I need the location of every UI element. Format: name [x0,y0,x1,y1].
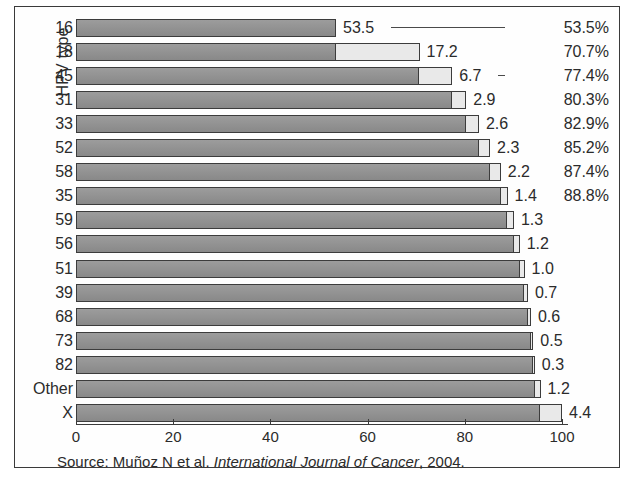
chart-row: 561.2 [15,232,621,256]
bar-group [76,235,520,253]
bar-group [76,139,490,157]
bar-group [76,211,514,229]
chart-row: 511.0 [15,257,621,281]
bar-segment-dark [76,43,336,61]
bar-group [76,356,535,374]
bar-segment-dark [76,380,535,398]
bar-value-label: 53.5 [343,16,374,40]
bar-segment-dark [76,235,514,253]
bar-group [76,284,528,302]
bar-segment-light [478,139,490,157]
chart-row: X4.4 [15,401,621,425]
chart-row: Other1.2 [15,377,621,401]
chart-row: 820.3 [15,353,621,377]
y-tick-label-35: 35 [15,184,73,208]
source-prefix: Source: Muñoz N et al. [57,453,214,470]
y-tick-label-16: 16 [15,16,73,40]
bar-segment-light [534,380,541,398]
bar-group [76,404,562,422]
bar-value-label: 2.9 [473,88,495,112]
x-tick-label-40: 40 [248,428,292,445]
bar-segment-light [489,163,501,181]
x-tick-mark [270,419,271,425]
bar-group [76,332,533,350]
y-tick-label-59: 59 [15,208,73,232]
bar-segment-dark [76,187,501,205]
x-tick-label-60: 60 [346,428,390,445]
bar-value-label: 4.4 [569,401,591,425]
y-tick-label-31: 31 [15,88,73,112]
bar-group [76,19,336,37]
bar-segment-light [523,284,528,302]
bar-segment-dark [76,332,531,350]
bar-segment-light [506,211,514,229]
cumulative-percent-label: 87.4% [564,160,609,184]
chart-row: 332.682.9% [15,112,621,136]
chart-row: 582.287.4% [15,160,621,184]
bar-group [76,43,420,61]
bar-value-label: 1.3 [521,208,543,232]
bar-segment-light [527,308,531,326]
chart-row: 390.7 [15,281,621,305]
bar-segment-dark [76,163,490,181]
bar-segment-light [451,91,466,109]
bar-group [76,380,541,398]
bar-segment-dark [76,308,528,326]
chart-row: 591.3 [15,208,621,232]
bar-segment-dark [76,91,452,109]
leader-line [498,75,505,76]
bar-segment-light [539,404,562,422]
x-tick-mark [76,419,77,425]
chart-row: 1653.553.5% [15,16,621,40]
bar-value-label: 2.2 [508,160,530,184]
y-tick-label-58: 58 [15,160,73,184]
bar-group [76,187,508,205]
y-tick-label-33: 33 [15,112,73,136]
x-tick-mark [368,419,369,425]
cumulative-percent-label: 53.5% [564,16,609,40]
y-tick-label-73: 73 [15,329,73,353]
bar-segment-dark [76,404,541,422]
x-tick-mark [562,419,563,425]
bar-value-label: 1.2 [527,232,549,256]
bar-group [76,308,531,326]
bar-value-label: 17.2 [427,40,458,64]
cumulative-percent-label: 82.9% [564,112,609,136]
chart-row: 351.488.8% [15,184,621,208]
bar-group [76,67,452,85]
y-tick-label-18: 18 [15,40,73,64]
bar-group [76,115,479,133]
bar-value-label: 0.5 [540,329,562,353]
bar-segment-light [465,115,479,133]
cumulative-percent-label: 85.2% [564,136,609,160]
leader-line [391,27,505,28]
y-tick-label-39: 39 [15,281,73,305]
chart-row: 1817.270.7% [15,40,621,64]
cumulative-percent-label: 70.7% [564,40,609,64]
bar-value-label: 1.2 [548,377,570,401]
bar-segment-dark [76,284,525,302]
bar-segment-dark [76,139,479,157]
y-tick-label-68: 68 [15,305,73,329]
y-tick-label-52: 52 [15,136,73,160]
x-tick-label-80: 80 [443,428,487,445]
y-tick-label-x: X [15,401,73,425]
bar-group [76,260,525,278]
x-tick-label-100: 100 [540,428,584,445]
chart-row: 456.777.4% [15,64,621,88]
y-tick-label-56: 56 [15,232,73,256]
bar-segment-light [500,187,508,205]
source-suffix: , 2004. [419,453,465,470]
bar-value-label: 0.7 [535,281,557,305]
bar-value-label: 6.7 [459,64,481,88]
bar-group [76,91,466,109]
bar-value-label: 2.6 [486,112,508,136]
bar-segment-light [335,43,420,61]
cumulative-percent-label: 80.3% [564,88,609,112]
cumulative-percent-label: 88.8% [564,184,609,208]
bar-segment-dark [76,115,466,133]
bar-segment-light [530,332,534,350]
cumulative-percent-label: 77.4% [564,64,609,88]
figure-frame: HPV type 1653.553.5%1817.270.7%456.777.4… [14,6,620,468]
chart-row: 312.980.3% [15,88,621,112]
